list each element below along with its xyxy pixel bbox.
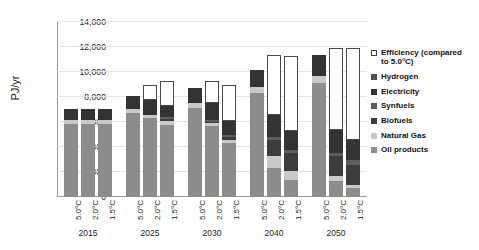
bar-2025-5-0°C[interactable]	[126, 96, 140, 197]
bar-segment-electricity	[64, 109, 78, 120]
legend-item-label: Electricity	[381, 87, 419, 96]
bar-segment-electricity	[329, 130, 343, 153]
bar-segment-oil	[267, 168, 281, 197]
bar-segment-electricity	[222, 121, 236, 135]
legend-item-label: Biofuels	[381, 116, 413, 125]
chart-figure: PJ/yr 02,0004,0006,0008,00010,00012,0001…	[0, 0, 479, 250]
bar-2040-1-5°C[interactable]	[284, 56, 298, 197]
bar-segment-efficiency	[284, 56, 298, 131]
x-axis-tick-label: 1.5°C	[170, 200, 179, 240]
bar-segment-efficiency	[346, 48, 360, 140]
bar-segment-biofuels	[346, 165, 360, 185]
bar-segment-electricity	[284, 131, 298, 150]
legend-swatch-icon	[371, 50, 377, 56]
legend-swatch-icon	[371, 118, 377, 124]
bar-segment-electricity	[205, 103, 219, 121]
bar-segment-natural	[284, 171, 298, 180]
bar-segment-electricity	[81, 109, 95, 120]
bar-segment-oil	[346, 188, 360, 197]
bar-segment-biofuels	[329, 156, 343, 176]
chart-legend: Efficiency (compared to 5.0°C)HydrogenEl…	[371, 48, 479, 160]
x-axis-tick-label: 1.5°C	[356, 200, 365, 240]
bar-segment-electricity	[346, 140, 360, 161]
bar-2050-5-0°C[interactable]	[312, 55, 326, 197]
bar-2050-2-0°C[interactable]	[329, 48, 343, 197]
bar-2050-1-5°C[interactable]	[346, 48, 360, 197]
bar-2025-2-0°C[interactable]	[143, 85, 157, 197]
bar-segment-electricity	[143, 100, 157, 114]
gridline	[57, 21, 367, 22]
bar-segment-biofuels	[267, 140, 281, 156]
x-axis-group-label: 2030	[203, 228, 222, 238]
bar-segment-oil	[64, 124, 78, 197]
bar-segment-efficiency	[267, 55, 281, 115]
x-axis-group-label: 2040	[265, 228, 284, 238]
bar-2025-1-5°C[interactable]	[160, 81, 174, 197]
x-axis-group-label: 2050	[327, 228, 346, 238]
legend-item-label: Oil products	[381, 145, 428, 154]
bar-segment-biofuels	[284, 153, 298, 171]
bar-segment-electricity	[312, 55, 326, 76]
bar-segment-oil	[329, 181, 343, 197]
bar-segment-electricity	[188, 88, 202, 102]
bar-2030-2-0°C[interactable]	[205, 81, 219, 197]
bar-2015-5-0°C[interactable]	[64, 109, 78, 197]
gridline	[57, 46, 367, 47]
bar-segment-efficiency	[329, 48, 343, 130]
x-axis-tick-label: 1.5°C	[232, 200, 241, 240]
legend-item[interactable]: Electricity	[371, 87, 479, 96]
legend-item-label: Natural Gas	[381, 131, 426, 140]
bar-segment-electricity	[250, 70, 264, 88]
bar-2030-5-0°C[interactable]	[188, 88, 202, 197]
legend-item-label: Efficiency (compared to 5.0°C)	[381, 48, 462, 66]
bar-segment-efficiency	[143, 85, 157, 100]
legend-item[interactable]: Oil products	[371, 145, 479, 154]
plot-area	[57, 22, 367, 197]
bar-2030-1-5°C[interactable]	[222, 85, 236, 197]
legend-item[interactable]: Natural Gas	[371, 131, 479, 140]
bar-segment-oil	[143, 118, 157, 197]
bar-segment-oil	[222, 143, 236, 197]
bar-segment-efficiency	[222, 85, 236, 121]
bar-segment-natural	[267, 156, 281, 167]
legend-swatch-icon	[371, 89, 377, 95]
legend-swatch-icon	[371, 147, 377, 153]
x-axis-group-label: 2025	[141, 228, 160, 238]
legend-item[interactable]: Efficiency (compared to 5.0°C)	[371, 48, 479, 66]
legend-item[interactable]: Biofuels	[371, 116, 479, 125]
bar-segment-efficiency	[205, 81, 219, 103]
legend-item[interactable]: Synfuels	[371, 101, 479, 110]
bar-segment-oil	[98, 124, 112, 197]
legend-swatch-icon	[371, 103, 377, 109]
legend-swatch-icon	[371, 74, 377, 80]
bar-segment-oil	[160, 125, 174, 198]
legend-item[interactable]: Hydrogen	[371, 72, 479, 81]
bar-2015-2-0°C[interactable]	[81, 109, 95, 197]
bar-2040-5-0°C[interactable]	[250, 70, 264, 198]
bar-2040-2-0°C[interactable]	[267, 55, 281, 198]
bar-segment-oil	[205, 126, 219, 197]
legend-item-label: Synfuels	[381, 101, 414, 110]
bar-segment-efficiency	[160, 81, 174, 106]
bar-segment-electricity	[98, 109, 112, 120]
bar-segment-electricity	[126, 96, 140, 109]
bar-segment-oil	[312, 83, 326, 197]
bar-segment-electricity	[160, 106, 174, 117]
bar-segment-oil	[126, 113, 140, 197]
bar-segment-oil	[188, 108, 202, 197]
bar-segment-electricity	[267, 115, 281, 138]
bar-segment-oil	[284, 180, 298, 197]
bar-segment-oil	[81, 124, 95, 197]
x-axis-tick-label: 1.5°C	[294, 200, 303, 240]
x-axis-group-label: 2015	[79, 228, 98, 238]
legend-swatch-icon	[371, 133, 377, 139]
bar-2015-1-5°C[interactable]	[98, 109, 112, 197]
bar-segment-oil	[250, 93, 264, 197]
x-axis-tick-label: 1.5°C	[108, 200, 117, 240]
y-axis-title: PJ/yr	[9, 75, 21, 100]
legend-item-label: Hydrogen	[381, 72, 418, 81]
